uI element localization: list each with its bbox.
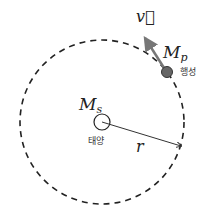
- radius-label: r: [136, 139, 144, 155]
- orbit-diagram: [0, 0, 211, 219]
- sun-mass-label: Ms: [79, 96, 102, 115]
- velocity-label: v⃗: [136, 9, 155, 25]
- planet-mass-label: Mp: [163, 44, 187, 63]
- planet-name-label: 행성: [180, 68, 196, 77]
- planet: [162, 67, 173, 78]
- sun-name-label: 태양: [88, 137, 104, 146]
